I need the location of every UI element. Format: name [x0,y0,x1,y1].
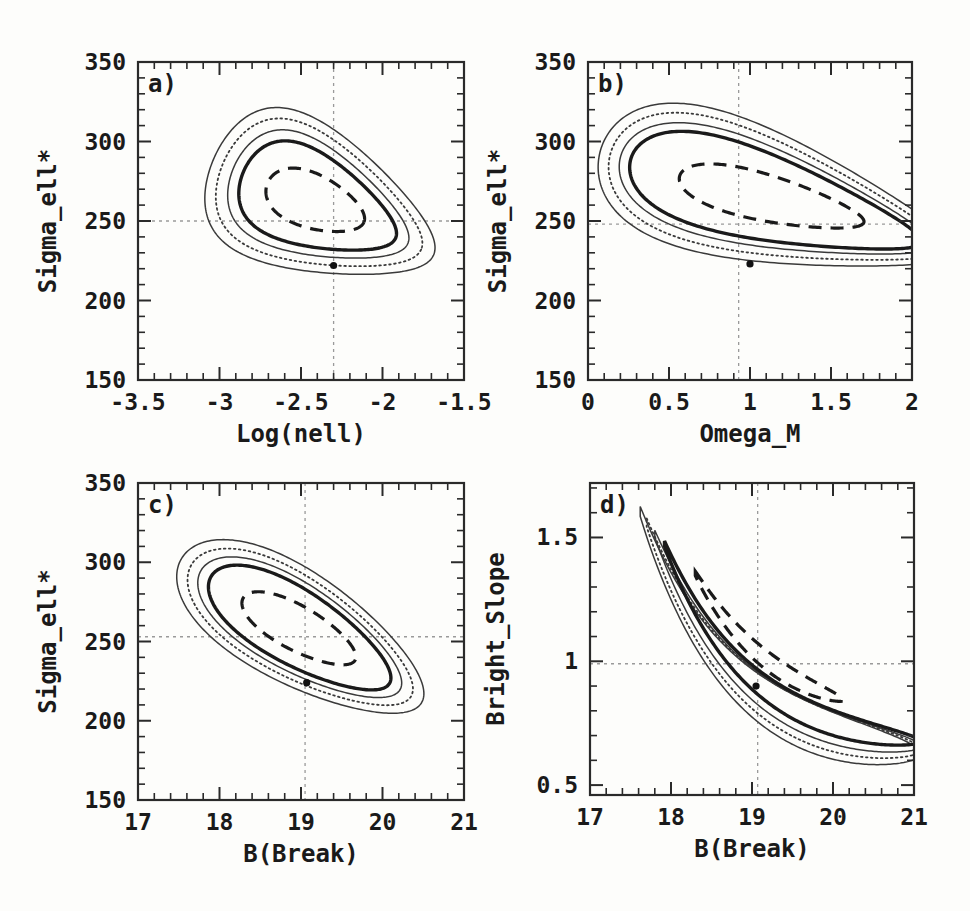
best-fit-marker-b [746,260,753,267]
xtick-label-d-4: 21 [900,804,928,830]
x-axis-label-c: B(Break) [243,840,359,868]
xtick-label-a-4: -1.5 [436,389,491,415]
y-axis-label-c: Sigma_ell* [34,569,62,714]
y-axis-label-a: Sigma_ell* [34,149,62,294]
xtick-label-c-4: 21 [450,809,478,835]
xtick-label-c-2: 19 [287,809,315,835]
ytick-label-c-0: 150 [84,787,126,813]
y-axis-label-d: Bright_Slope [482,552,510,725]
ytick-label-a-4: 350 [84,49,126,75]
ytick-label-d-1: 1 [564,648,578,674]
figure-background [0,0,970,911]
ytick-label-c-4: 350 [84,470,126,496]
ytick-label-d-0: 0.5 [536,772,578,798]
xtick-label-d-2: 19 [738,804,766,830]
ytick-label-a-0: 150 [84,367,126,393]
ytick-label-a-1: 200 [84,288,126,314]
ytick-label-b-1: 200 [534,288,576,314]
xtick-label-b-1: 0.5 [648,389,690,415]
figure-canvas: -3.5-3-2.5-2-1.5150200250300350Log(nell)… [0,0,970,911]
xtick-label-a-1: -3 [206,389,234,415]
x-axis-label-d: B(Break) [694,835,810,863]
ytick-label-c-1: 200 [84,708,126,734]
best-fit-marker-a [330,262,337,269]
panel-label-b: b) [598,70,627,98]
panel-label-d: d) [600,491,629,519]
ytick-label-c-3: 300 [84,549,126,575]
y-axis-label-b: Sigma_ell* [484,149,512,294]
xtick-label-a-3: -2 [369,389,397,415]
xtick-label-d-0: 17 [576,804,604,830]
xtick-label-d-3: 20 [819,804,847,830]
ytick-label-b-3: 300 [534,129,576,155]
ytick-label-b-2: 250 [534,208,576,234]
xtick-label-c-1: 18 [206,809,234,835]
xtick-label-b-0: 0 [581,389,595,415]
xtick-label-a-2: -2.5 [273,389,328,415]
xtick-label-c-3: 20 [369,809,397,835]
best-fit-marker-c [303,679,310,686]
ytick-label-a-2: 250 [84,208,126,234]
contour-figure: -3.5-3-2.5-2-1.5150200250300350Log(nell)… [0,0,970,911]
ytick-label-c-2: 250 [84,629,126,655]
xtick-label-b-4: 2 [905,389,919,415]
ytick-label-a-3: 300 [84,129,126,155]
xtick-label-d-1: 18 [657,804,685,830]
panel-label-a: a) [148,70,177,98]
x-axis-label-b: Omega_M [699,420,800,448]
xtick-label-b-2: 1 [743,389,757,415]
best-fit-marker-d [752,682,759,689]
xtick-label-b-3: 1.5 [810,389,852,415]
x-axis-label-a: Log(nell) [236,420,366,448]
ytick-label-b-0: 150 [534,367,576,393]
panel-label-c: c) [148,491,177,519]
ytick-label-d-2: 1.5 [536,524,578,550]
ytick-label-b-4: 350 [534,49,576,75]
xtick-label-c-0: 17 [124,809,152,835]
